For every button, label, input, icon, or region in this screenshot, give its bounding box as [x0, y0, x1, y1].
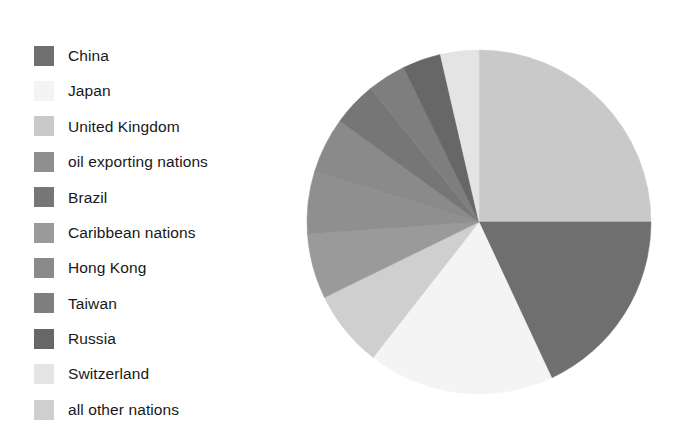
legend-swatch-china: [34, 46, 54, 66]
legend-swatch-all-other-nations: [34, 400, 54, 420]
legend-swatch-oil-exporting-nations: [34, 152, 54, 172]
legend-swatch-switzerland: [34, 364, 54, 384]
legend-swatch-caribbean-nations: [34, 223, 54, 243]
legend-item-brazil[interactable]: Brazil: [34, 180, 274, 215]
legend-item-china[interactable]: China: [34, 38, 274, 73]
legend-label-united-kingdom: United Kingdom: [68, 119, 180, 135]
legend-label-switzerland: Switzerland: [68, 366, 149, 382]
legend-item-united-kingdom[interactable]: United Kingdom: [34, 109, 274, 144]
legend-swatch-japan: [34, 81, 54, 101]
legend-item-switzerland[interactable]: Switzerland: [34, 357, 274, 392]
legend-item-russia[interactable]: Russia: [34, 321, 274, 356]
legend-item-all-other-nations[interactable]: all other nations: [34, 392, 274, 427]
legend-label-brazil: Brazil: [68, 190, 107, 206]
legend-item-oil-exporting-nations[interactable]: oil exporting nations: [34, 144, 274, 179]
pie-chart-figure: China Japan United Kingdom oil exporting…: [0, 0, 684, 437]
pie-chart: [303, 44, 655, 400]
legend-swatch-brazil: [34, 187, 54, 207]
legend-swatch-taiwan: [34, 293, 54, 313]
legend-swatch-united-kingdom: [34, 116, 54, 136]
chart-legend: China Japan United Kingdom oil exporting…: [34, 38, 274, 427]
legend-label-all-other-nations: all other nations: [68, 402, 179, 418]
pie-chart-svg: [303, 44, 655, 400]
legend-label-japan: Japan: [68, 83, 111, 99]
legend-label-hong-kong: Hong Kong: [68, 260, 146, 276]
legend-label-russia: Russia: [68, 331, 116, 347]
legend-label-caribbean-nations: Caribbean nations: [68, 225, 196, 241]
pie-slice-united-kingdom[interactable]: [479, 50, 651, 222]
legend-item-hong-kong[interactable]: Hong Kong: [34, 250, 274, 285]
legend-swatch-hong-kong: [34, 258, 54, 278]
legend-swatch-russia: [34, 329, 54, 349]
pie-slice-group: [307, 50, 651, 394]
legend-item-taiwan[interactable]: Taiwan: [34, 286, 274, 321]
legend-label-china: China: [68, 48, 109, 64]
legend-label-oil-exporting-nations: oil exporting nations: [68, 154, 208, 170]
legend-item-caribbean-nations[interactable]: Caribbean nations: [34, 215, 274, 250]
legend-item-japan[interactable]: Japan: [34, 73, 274, 108]
legend-label-taiwan: Taiwan: [68, 296, 117, 312]
